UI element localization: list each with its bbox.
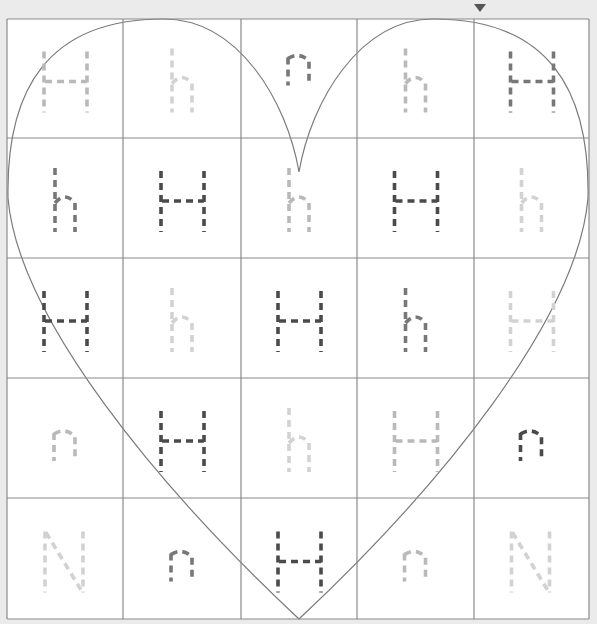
cell-hit-area[interactable]	[357, 378, 474, 498]
cell-r1-c3-letter-n[interactable]	[241, 19, 357, 138]
cell-r3-c5-letter-H[interactable]	[474, 258, 589, 378]
cell-hit-area[interactable]	[357, 19, 474, 138]
cell-r4-c2-letter-H[interactable]	[123, 378, 241, 498]
cell-hit-area[interactable]	[241, 258, 357, 378]
cell-hit-area[interactable]	[474, 138, 589, 258]
cell-r4-c1-letter-n[interactable]	[7, 378, 123, 498]
letter-cells	[7, 19, 589, 619]
cell-hit-area[interactable]	[241, 498, 357, 619]
cell-r5-c4-letter-n[interactable]	[357, 498, 474, 619]
cell-hit-area[interactable]	[123, 19, 241, 138]
cell-r3-c4-letter-h[interactable]	[357, 258, 474, 378]
cell-r5-c3-letter-H[interactable]	[241, 498, 357, 619]
cell-hit-area[interactable]	[123, 258, 241, 378]
cell-hit-area[interactable]	[357, 498, 474, 619]
cell-hit-area[interactable]	[241, 19, 357, 138]
cell-hit-area[interactable]	[357, 258, 474, 378]
cell-r5-c5-letter-N[interactable]	[474, 498, 589, 619]
cell-hit-area[interactable]	[7, 378, 123, 498]
cell-hit-area[interactable]	[123, 498, 241, 619]
cell-r4-c4-letter-H[interactable]	[357, 378, 474, 498]
cell-r2-c2-letter-H[interactable]	[123, 138, 241, 258]
cell-hit-area[interactable]	[357, 138, 474, 258]
cell-r3-c2-letter-h[interactable]	[123, 258, 241, 378]
cell-r2-c1-letter-h[interactable]	[7, 138, 123, 258]
cell-hit-area[interactable]	[474, 498, 589, 619]
cell-r1-c2-letter-h[interactable]	[123, 19, 241, 138]
cell-r2-c3-letter-h[interactable]	[241, 138, 357, 258]
cell-r2-c5-letter-h[interactable]	[474, 138, 589, 258]
cell-hit-area[interactable]	[7, 19, 123, 138]
cell-r4-c3-letter-h[interactable]	[241, 378, 357, 498]
cell-r5-c2-letter-n[interactable]	[123, 498, 241, 619]
cell-hit-area[interactable]	[474, 258, 589, 378]
cell-hit-area[interactable]	[474, 19, 589, 138]
cell-r3-c3-letter-H[interactable]	[241, 258, 357, 378]
cell-hit-area[interactable]	[241, 138, 357, 258]
cell-hit-area[interactable]	[7, 258, 123, 378]
cell-hit-area[interactable]	[123, 138, 241, 258]
cell-r5-c1-letter-N[interactable]	[7, 498, 123, 619]
cell-hit-area[interactable]	[123, 378, 241, 498]
cell-r2-c4-letter-H[interactable]	[357, 138, 474, 258]
cell-r3-c1-letter-H[interactable]	[7, 258, 123, 378]
cell-r1-c5-letter-H[interactable]	[474, 19, 589, 138]
cell-hit-area[interactable]	[7, 138, 123, 258]
cell-r4-c5-letter-n[interactable]	[474, 378, 589, 498]
cell-hit-area[interactable]	[241, 378, 357, 498]
cell-r1-c1-letter-H[interactable]	[7, 19, 123, 138]
cell-hit-area[interactable]	[474, 378, 589, 498]
worksheet-canvas	[0, 0, 597, 624]
cell-hit-area[interactable]	[7, 498, 123, 619]
cell-r1-c4-letter-h[interactable]	[357, 19, 474, 138]
